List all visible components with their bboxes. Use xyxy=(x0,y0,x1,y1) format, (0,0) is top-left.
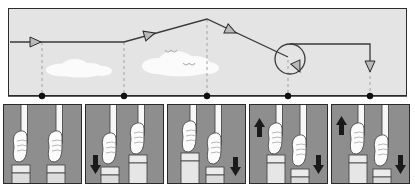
hand-signal-panel-5[interactable] xyxy=(331,104,410,184)
right-hand xyxy=(129,105,147,184)
arrow-down-right-icon xyxy=(313,155,324,174)
marker-4 xyxy=(285,93,291,99)
guide-lines xyxy=(42,19,370,96)
hand-signal-strip xyxy=(0,104,415,189)
flight-path-diagram xyxy=(0,0,415,105)
right-hand xyxy=(373,105,391,184)
marker-2 xyxy=(121,93,127,99)
right-hand xyxy=(206,105,224,184)
left-hand xyxy=(181,105,199,184)
arrow-up-left-icon xyxy=(254,118,265,137)
arrow-down-left-icon xyxy=(90,155,101,174)
left-hand xyxy=(349,105,367,184)
hand-signal-panel-3[interactable] xyxy=(167,104,246,184)
hand-signal-panel-4[interactable] xyxy=(249,104,328,184)
arrow-down-right-icon xyxy=(230,157,241,176)
cloud-left xyxy=(46,59,112,78)
figure-root xyxy=(0,0,415,189)
marker-3 xyxy=(204,93,210,99)
left-hand xyxy=(101,105,119,184)
arrow-down-right-icon xyxy=(395,155,406,174)
left-hand xyxy=(12,105,30,184)
arrow-climb-icon xyxy=(143,28,156,41)
arrow-up-left-icon xyxy=(336,116,347,135)
right-hand xyxy=(291,105,309,184)
arrow-level-inbound-icon xyxy=(30,37,41,47)
arrow-descent-icon xyxy=(224,24,238,38)
left-hand xyxy=(267,105,285,184)
hand-signal-panel-2[interactable] xyxy=(85,104,164,184)
hand-signal-panel-1[interactable] xyxy=(3,104,82,184)
arrow-dive-icon xyxy=(365,61,375,72)
marker-5 xyxy=(367,93,373,99)
marker-1 xyxy=(39,93,45,99)
right-hand xyxy=(47,105,65,184)
